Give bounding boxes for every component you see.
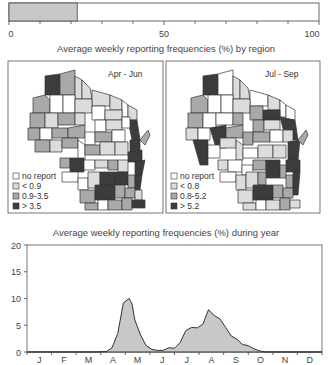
y-tick-label: 0 — [16, 348, 21, 358]
month-label: J — [185, 355, 190, 365]
map-panel-apr-jun: Apr - Jun — [8, 61, 163, 213]
area-chart: 05101520 JFMAMJJASOND — [11, 241, 322, 365]
month-label: J — [37, 355, 42, 365]
legend-low: < 0.9 — [22, 181, 41, 191]
legend-no-report: no report — [180, 171, 215, 181]
month-label: A — [208, 355, 214, 365]
legend-high: > 3.5 — [22, 201, 41, 211]
month-label: J — [160, 355, 165, 365]
month-label: N — [282, 355, 289, 365]
chart-title: Average weekly reporting frequencies (%)… — [53, 227, 279, 238]
legend-no-report: no report — [22, 171, 57, 181]
x-axis: JFMAMJJASOND — [27, 352, 322, 365]
y-tick-label: 15 — [11, 267, 21, 277]
month-label: A — [110, 355, 116, 365]
legend-mid: 0.8-5.2 — [180, 191, 207, 201]
month-label: O — [257, 355, 264, 365]
y-tick-label: 5 — [16, 321, 21, 331]
maps-title: Average weekly reporting frequencies (%)… — [57, 43, 275, 54]
y-axis: 05101520 — [11, 241, 27, 358]
month-label: M — [134, 355, 142, 365]
legend-high: > 5.2 — [180, 201, 199, 211]
map-panel-jul-sep: Jul - Sep — [166, 61, 320, 213]
figure: 0 50 100 Average weekly reporting freque… — [0, 0, 333, 365]
legend-mid: 0.9-3.5 — [22, 191, 49, 201]
y-tick-label: 20 — [11, 241, 21, 251]
month-label: S — [233, 355, 239, 365]
map-period-label: Apr - Jun — [108, 69, 143, 79]
legend-low: < 0.8 — [180, 181, 199, 191]
bar-fill — [9, 3, 77, 21]
month-label: M — [85, 355, 93, 365]
bar-tick-100: 100 — [304, 29, 319, 39]
map-period-label: Jul - Sep — [265, 69, 299, 79]
y-tick-label: 10 — [11, 294, 21, 304]
bar-ticks — [9, 21, 319, 25]
month-label: F — [61, 355, 67, 365]
bar-tick-0: 0 — [8, 29, 13, 39]
overall-frequency-bar: 0 50 100 — [8, 3, 319, 39]
month-label: D — [306, 355, 313, 365]
bar-tick-50: 50 — [159, 29, 169, 39]
